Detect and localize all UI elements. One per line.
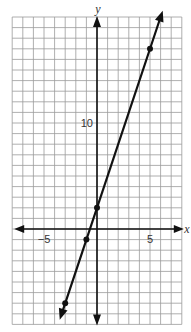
y-axis-label: y [94,2,101,16]
x-tick-label-neg5: −5 [38,233,51,245]
line-arrow-up-icon [155,11,164,23]
x-axis-arrow-left-icon [14,225,24,233]
y-axis-arrow-up-icon [93,16,101,27]
data-point [83,237,89,243]
axes [14,16,184,325]
data-point [62,300,68,306]
x-tick-label-5: 5 [147,233,153,245]
coordinate-plane: y x −5 5 10 [0,0,191,332]
data-point [147,46,153,52]
y-tick-label-10: 10 [81,117,93,129]
y-axis-arrow-down-icon [93,314,101,325]
x-axis-label: x [183,222,190,236]
data-point [94,205,100,211]
x-axis-arrow-right-icon [174,225,184,233]
